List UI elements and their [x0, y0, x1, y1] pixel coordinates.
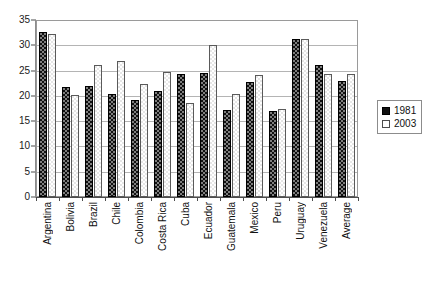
bar-1981 — [177, 74, 185, 197]
legend-swatch-2003-icon — [382, 120, 390, 128]
legend-item-2003: 2003 — [382, 117, 416, 130]
bar-1981 — [269, 111, 277, 197]
bar-1981 — [108, 94, 116, 197]
x-axis-tick-mark — [151, 197, 152, 201]
legend-label-2003: 2003 — [394, 119, 416, 129]
x-axis-tick-mark — [312, 197, 313, 201]
x-axis-tick-mark — [358, 197, 359, 201]
x-axis-tick-mark — [174, 197, 175, 201]
bar-group — [312, 20, 335, 197]
bar-1981 — [39, 32, 47, 197]
x-axis-label: Average — [342, 202, 352, 239]
x-axis-label: Mexico — [250, 202, 260, 234]
bar-1981 — [62, 87, 70, 197]
bar-1981 — [292, 39, 300, 197]
y-axis-tick-label: 30 — [19, 40, 30, 50]
bar-2003 — [232, 94, 240, 197]
bar-group — [335, 20, 358, 197]
y-axis-tick-label: 20 — [19, 91, 30, 101]
x-axis-label: Colombia — [135, 202, 145, 244]
bar-group — [243, 20, 266, 197]
bar-1981 — [223, 110, 231, 197]
x-axis-label: Peru — [273, 202, 283, 223]
bar-1981 — [246, 82, 254, 197]
bar-group — [151, 20, 174, 197]
y-axis-tick-label: 35 — [19, 15, 30, 25]
bar-group — [36, 20, 59, 197]
x-axis-label: Uruguay — [296, 202, 306, 240]
bar-1981 — [154, 91, 162, 197]
x-axis-label: Cuba — [181, 202, 191, 226]
x-axis-label: Costa Rica — [158, 202, 168, 251]
bar-2003 — [278, 109, 286, 198]
y-axis-tick-label: 10 — [19, 141, 30, 151]
bar-2003 — [163, 72, 171, 197]
bar-1981 — [315, 65, 323, 197]
bar-chart-figure: 05101520253035 ArgentinaBoliviaBrazilChi… — [0, 0, 433, 289]
x-axis-tick-mark — [220, 197, 221, 201]
legend-swatch-1981-icon — [382, 107, 390, 115]
legend-label-1981: 1981 — [394, 106, 416, 116]
bar-group — [220, 20, 243, 197]
bar-group — [59, 20, 82, 197]
bar-2003 — [209, 45, 217, 197]
x-axis-tick-mark — [243, 197, 244, 201]
x-axis-label: Brazil — [89, 202, 99, 227]
bar-1981 — [85, 86, 93, 197]
y-axis: 05101520253035 — [0, 20, 36, 197]
bar-2003 — [324, 74, 332, 197]
bar-2003 — [48, 34, 56, 197]
x-axis-labels: ArgentinaBoliviaBrazilChileColombiaCosta… — [36, 202, 358, 284]
bar-2003 — [140, 84, 148, 197]
bar-group — [266, 20, 289, 197]
x-axis-label: Venezuela — [319, 202, 329, 249]
bar-group — [105, 20, 128, 197]
x-axis-label: Argentina — [43, 202, 53, 245]
x-axis-label: Ecuador — [204, 202, 214, 239]
y-axis-tick-label: 15 — [19, 116, 30, 126]
bar-1981 — [338, 81, 346, 197]
x-axis-tick-mark — [36, 197, 37, 201]
x-axis-tick-mark — [266, 197, 267, 201]
bar-group — [289, 20, 312, 197]
x-axis-label: Bolivia — [66, 202, 76, 231]
legend-item-1981: 1981 — [382, 104, 416, 117]
bar-2003 — [186, 103, 194, 197]
bar-group — [128, 20, 151, 197]
x-axis-tick-mark — [59, 197, 60, 201]
bar-2003 — [347, 74, 355, 197]
y-axis-tick-label: 5 — [24, 167, 30, 177]
bar-2003 — [301, 39, 309, 197]
bar-1981 — [131, 100, 139, 197]
bar-1981 — [200, 73, 208, 197]
bar-group — [82, 20, 105, 197]
x-axis-tick-mark — [82, 197, 83, 201]
chart-legend: 1981 2003 — [377, 100, 422, 134]
bar-2003 — [94, 65, 102, 197]
x-axis-tick-mark — [335, 197, 336, 201]
bar-2003 — [255, 75, 263, 197]
x-axis-tick-mark — [289, 197, 290, 201]
bar-2003 — [117, 61, 125, 197]
bar-group — [174, 20, 197, 197]
x-axis-label: Chile — [112, 202, 122, 225]
bar-series-container — [36, 20, 358, 197]
bar-group — [197, 20, 220, 197]
x-axis-tick-mark — [105, 197, 106, 201]
x-axis-label: Guatemala — [227, 202, 237, 251]
y-axis-tick-label: 25 — [19, 66, 30, 76]
y-axis-tick-label: 0 — [24, 192, 30, 202]
bar-2003 — [71, 95, 79, 197]
x-axis-tick-mark — [197, 197, 198, 201]
x-axis-tick-mark — [128, 197, 129, 201]
